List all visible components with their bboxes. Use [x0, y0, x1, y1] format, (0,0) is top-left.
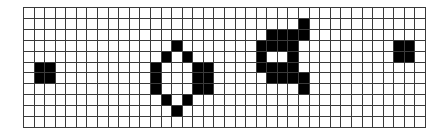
grid-cell-empty[interactable]	[35, 117, 45, 128]
grid-cell-empty[interactable]	[225, 41, 236, 52]
grid-cell-empty[interactable]	[394, 8, 405, 19]
grid-cell-empty[interactable]	[373, 41, 384, 52]
grid-cell-filled[interactable]	[45, 73, 56, 84]
grid-cell-empty[interactable]	[373, 30, 384, 41]
grid-cell-empty[interactable]	[341, 52, 352, 63]
grid-cell-empty[interactable]	[236, 106, 246, 117]
grid-cell-empty[interactable]	[288, 84, 299, 95]
grid-cell-empty[interactable]	[140, 30, 151, 41]
grid-cell-empty[interactable]	[384, 84, 394, 95]
grid-cell-empty[interactable]	[341, 84, 352, 95]
grid-cell-empty[interactable]	[320, 117, 331, 128]
grid-cell-empty[interactable]	[405, 30, 415, 41]
grid-cell-empty[interactable]	[246, 117, 257, 128]
grid-cell-empty[interactable]	[172, 30, 183, 41]
grid-cell-empty[interactable]	[236, 8, 246, 19]
grid-cell-empty[interactable]	[56, 95, 66, 106]
grid-cell-empty[interactable]	[394, 63, 405, 73]
grid-cell-empty[interactable]	[363, 95, 373, 106]
grid-cell-empty[interactable]	[246, 63, 257, 73]
grid-cell-empty[interactable]	[363, 106, 373, 117]
grid-cell-empty[interactable]	[246, 41, 257, 52]
grid-cell-empty[interactable]	[394, 117, 405, 128]
grid-cell-filled[interactable]	[183, 52, 193, 63]
grid-cell-empty[interactable]	[130, 19, 140, 30]
grid-cell-empty[interactable]	[299, 117, 310, 128]
grid-cell-empty[interactable]	[151, 117, 162, 128]
grid-cell-empty[interactable]	[204, 30, 214, 41]
grid-cell-empty[interactable]	[204, 19, 214, 30]
grid-cell-empty[interactable]	[87, 19, 98, 30]
grid-cell-empty[interactable]	[193, 117, 204, 128]
grid-cell-empty[interactable]	[257, 19, 267, 30]
grid-cell-empty[interactable]	[257, 117, 267, 128]
grid-cell-empty[interactable]	[331, 73, 341, 84]
grid-cell-empty[interactable]	[310, 84, 320, 95]
grid-cell-empty[interactable]	[331, 8, 341, 19]
grid-cell-empty[interactable]	[98, 8, 109, 19]
grid-cell-empty[interactable]	[288, 8, 299, 19]
grid-cell-filled[interactable]	[45, 63, 56, 73]
grid-cell-empty[interactable]	[204, 117, 214, 128]
grid-cell-filled[interactable]	[35, 63, 45, 73]
grid-cell-empty[interactable]	[35, 52, 45, 63]
grid-cell-empty[interactable]	[77, 84, 87, 95]
grid-cell-empty[interactable]	[331, 117, 341, 128]
grid-cell-empty[interactable]	[45, 52, 56, 63]
grid-cell-empty[interactable]	[119, 8, 130, 19]
grid-cell-empty[interactable]	[278, 95, 288, 106]
grid-cell-filled[interactable]	[257, 63, 267, 73]
grid-cell-empty[interactable]	[56, 73, 66, 84]
grid-cell-empty[interactable]	[119, 106, 130, 117]
grid-cell-empty[interactable]	[352, 117, 363, 128]
grid-cell-empty[interactable]	[140, 106, 151, 117]
grid-cell-empty[interactable]	[193, 41, 204, 52]
grid-cell-empty[interactable]	[394, 30, 405, 41]
grid-cell-empty[interactable]	[331, 95, 341, 106]
grid-cell-empty[interactable]	[77, 30, 87, 41]
grid-cell-empty[interactable]	[257, 95, 267, 106]
grid-cell-empty[interactable]	[373, 73, 384, 84]
grid-cell-empty[interactable]	[278, 8, 288, 19]
grid-cell-filled[interactable]	[183, 95, 193, 106]
grid-cell-empty[interactable]	[98, 30, 109, 41]
grid-cell-empty[interactable]	[130, 106, 140, 117]
grid-cell-empty[interactable]	[98, 117, 109, 128]
grid-cell-filled[interactable]	[394, 52, 405, 63]
grid-cell-empty[interactable]	[193, 19, 204, 30]
grid-cell-empty[interactable]	[56, 41, 66, 52]
grid-cell-empty[interactable]	[352, 84, 363, 95]
grid-cell-empty[interactable]	[151, 30, 162, 41]
grid-cell-empty[interactable]	[140, 63, 151, 73]
grid-cell-empty[interactable]	[225, 106, 236, 117]
grid-cell-empty[interactable]	[98, 41, 109, 52]
grid-cell-empty[interactable]	[56, 106, 66, 117]
grid-cell-filled[interactable]	[278, 63, 288, 73]
grid-cell-empty[interactable]	[214, 106, 225, 117]
grid-cell-empty[interactable]	[415, 95, 426, 106]
grid-cell-empty[interactable]	[172, 52, 183, 63]
grid-cell-empty[interactable]	[352, 8, 363, 19]
grid-cell-empty[interactable]	[341, 117, 352, 128]
grid-cell-empty[interactable]	[246, 106, 257, 117]
grid-cell-empty[interactable]	[140, 95, 151, 106]
grid-cell-empty[interactable]	[130, 8, 140, 19]
grid-cell-empty[interactable]	[140, 41, 151, 52]
grid-cell-empty[interactable]	[415, 117, 426, 128]
grid-cell-empty[interactable]	[331, 41, 341, 52]
grid-cell-empty[interactable]	[130, 52, 140, 63]
grid-cell-empty[interactable]	[288, 106, 299, 117]
grid-cell-empty[interactable]	[24, 95, 35, 106]
grid-cell-empty[interactable]	[236, 63, 246, 73]
grid-cell-empty[interactable]	[225, 95, 236, 106]
grid-cell-empty[interactable]	[320, 106, 331, 117]
grid-cell-empty[interactable]	[405, 63, 415, 73]
grid-cell-empty[interactable]	[183, 41, 193, 52]
grid-cell-empty[interactable]	[66, 52, 77, 63]
grid-cell-empty[interactable]	[66, 73, 77, 84]
grid-cell-empty[interactable]	[162, 19, 172, 30]
grid-cell-empty[interactable]	[310, 19, 320, 30]
grid-cell-empty[interactable]	[109, 63, 119, 73]
grid-cell-empty[interactable]	[320, 84, 331, 95]
grid-cell-empty[interactable]	[35, 30, 45, 41]
